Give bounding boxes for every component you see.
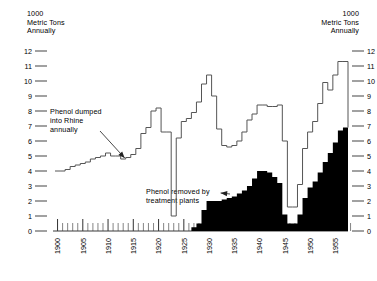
y-tick-label-left: 2 bbox=[28, 197, 32, 206]
x-tick-label: 1920 bbox=[154, 238, 163, 254]
y-tick-label-right: 1 bbox=[367, 212, 371, 221]
y-tick-label-left: 10 bbox=[24, 77, 32, 86]
x-tick-label: 1900 bbox=[53, 238, 62, 254]
y-axis-right-ticks: 1211109876543210 bbox=[352, 47, 375, 236]
x-tick-label: 1955 bbox=[331, 238, 340, 254]
x-axis-tick-labels: 1900190519101915192019251930193519401945… bbox=[53, 238, 340, 254]
line-path-phenol-dumped bbox=[55, 62, 348, 217]
y-tick-label-right: 3 bbox=[367, 182, 371, 191]
x-tick-label: 1945 bbox=[281, 238, 290, 254]
area-path-phenol-removed bbox=[55, 128, 348, 232]
x-tick-label: 1925 bbox=[180, 238, 189, 254]
x-tick-label: 1910 bbox=[104, 238, 113, 254]
chart-plot-area: 1211109876543210 1211109876543210 190019… bbox=[0, 0, 377, 281]
x-tick-label: 1935 bbox=[230, 238, 239, 254]
y-tick-label-right: 7 bbox=[367, 122, 371, 131]
phenol-rhine-chart: 1000 Metric Tons Annually 1000 Metric To… bbox=[0, 0, 377, 281]
y-tick-label-left: 8 bbox=[28, 107, 32, 116]
y-tick-label-right: 2 bbox=[367, 197, 371, 206]
x-tick-label: 1915 bbox=[129, 238, 138, 254]
y-tick-label-left: 5 bbox=[28, 152, 32, 161]
y-tick-label-right: 9 bbox=[367, 92, 371, 101]
y-tick-label-right: 8 bbox=[367, 107, 371, 116]
annotation-arrows bbox=[100, 131, 230, 196]
y-tick-label-left: 4 bbox=[28, 167, 32, 176]
arrow-phenol-removed-head bbox=[221, 191, 228, 196]
area-phenol-removed bbox=[55, 128, 348, 232]
y-tick-label-left: 0 bbox=[28, 227, 32, 236]
line-phenol-dumped bbox=[55, 62, 348, 217]
y-tick-label-left: 3 bbox=[28, 182, 32, 191]
y-axis-left-ticks: 1211109876543210 bbox=[24, 47, 47, 236]
x-tick-label: 1940 bbox=[255, 238, 264, 254]
x-tick-label: 1950 bbox=[306, 238, 315, 254]
y-tick-label-right: 10 bbox=[367, 77, 375, 86]
y-tick-label-left: 1 bbox=[28, 212, 32, 221]
y-tick-label-left: 9 bbox=[28, 92, 32, 101]
y-tick-label-left: 12 bbox=[24, 47, 32, 56]
y-tick-label-right: 0 bbox=[367, 227, 371, 236]
y-tick-label-right: 4 bbox=[367, 167, 371, 176]
y-tick-label-right: 11 bbox=[367, 62, 374, 71]
y-tick-label-left: 11 bbox=[25, 62, 32, 71]
y-tick-label-left: 6 bbox=[28, 137, 32, 146]
y-tick-label-right: 6 bbox=[367, 137, 371, 146]
x-tick-label: 1930 bbox=[205, 238, 214, 254]
x-tick-label: 1905 bbox=[79, 238, 88, 254]
y-tick-label-left: 7 bbox=[28, 122, 32, 131]
y-tick-label-right: 5 bbox=[367, 152, 371, 161]
y-tick-label-right: 12 bbox=[367, 47, 375, 56]
